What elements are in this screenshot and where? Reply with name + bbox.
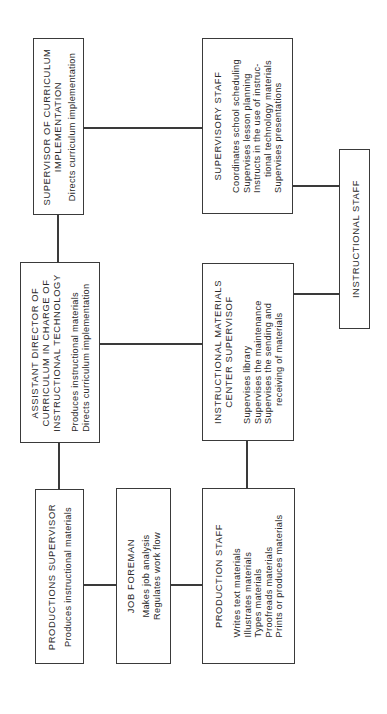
- title: INSTRUCTIONAL STAFF: [349, 180, 360, 298]
- connector-imc-to-instructional: [293, 293, 339, 295]
- title: SUPERVISORY STAFF: [212, 59, 223, 193]
- duty: Supervises the sending and: [263, 280, 274, 424]
- connector-supervisory-to-instructional: [292, 185, 339, 187]
- duty: Supervises library: [242, 280, 253, 424]
- duty: receiving of materials: [274, 280, 285, 424]
- box-production-staff: PRODUCTION STAFF Writes text materials I…: [202, 488, 295, 664]
- title: PRODUCTION STAFF: [213, 515, 224, 638]
- title: CENTER SUPERVISOF: [223, 280, 234, 424]
- title: CURRICULUM IN CHARGE OF: [40, 274, 51, 432]
- connector-supervisor-to-supervisory-staff: [83, 127, 202, 129]
- title: INSTRUCTIONAL TECHNOLOGY: [51, 274, 62, 432]
- duty: Coordinates school scheduling: [231, 59, 242, 193]
- box-imc-supervisor: INSTRUCTIONAL MATERIALS CENTER SUPERVISO…: [202, 263, 294, 441]
- connector-productions-to-foreman: [84, 584, 116, 586]
- box-supervisor-of-curriculum: SUPERVISOR OF CURRICULUM IMPLEMENTATION …: [33, 38, 84, 215]
- duty: Supervises lesson planning: [241, 59, 252, 193]
- connector-supervisor-to-assistant: [57, 214, 59, 262]
- connector-imc-to-production-staff: [246, 440, 248, 488]
- title: ASSISTANT DIRECTOR OF: [29, 274, 40, 432]
- box-assistant-director: ASSISTANT DIRECTOR OF CURRICULUM IN CHAR…: [20, 262, 100, 443]
- connector-foreman-to-production-staff: [170, 584, 202, 586]
- box-supervisory-staff: SUPERVISORY STAFF Coordinates school sch…: [202, 38, 293, 214]
- title: IMPLEMENTATION: [51, 48, 62, 205]
- box-job-foreman: JOB FOREMAN Makes job analysis Regulates…: [116, 488, 171, 664]
- duty: Produces instructional materials: [70, 274, 81, 432]
- duty: Supervises the maintenance: [252, 280, 263, 424]
- title: PRODUCTIONS SUPERVISOR: [46, 503, 57, 649]
- duty: Directs curriculum implementation: [66, 48, 77, 205]
- duty: Prints or produces materials: [274, 515, 285, 638]
- box-instructional-staff: INSTRUCTIONAL STAFF: [339, 149, 370, 329]
- box-productions-supervisor: PRODUCTIONS SUPERVISOR Produces instruct…: [35, 489, 84, 664]
- title: INSTRUCTIONAL MATERIALS: [212, 280, 223, 424]
- connector-assistant-to-imc: [99, 343, 202, 345]
- duty: Illustrates materials: [242, 515, 253, 638]
- duty: Produces instructional materials: [63, 503, 74, 649]
- duty: Proofreads materials: [263, 515, 274, 638]
- duty: Directs curriculum implementation: [81, 274, 92, 432]
- duty: Writes text materials: [232, 515, 243, 638]
- title: JOB FOREMAN: [125, 532, 136, 620]
- connector-assistant-to-productions: [58, 442, 60, 489]
- duty: tional technology materials: [262, 59, 273, 193]
- duty: Types materials: [253, 515, 264, 638]
- duty: Instructs in the use of instruc-: [252, 59, 263, 193]
- duty: Regulates work flow: [152, 532, 163, 620]
- title: SUPERVISOR OF CURRICULUM: [40, 48, 51, 205]
- duty: Makes job analysis: [141, 532, 152, 620]
- duty: Supervises presentations: [273, 59, 284, 193]
